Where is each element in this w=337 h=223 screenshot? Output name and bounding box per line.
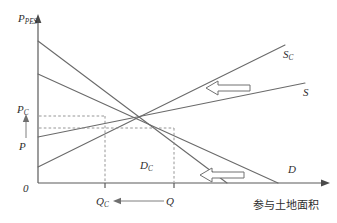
supply-shifted-curve	[38, 45, 285, 167]
demand-shifted-label-main: D	[140, 159, 148, 171]
price-label-pc-main: P	[17, 103, 24, 115]
quantity-movement-arrow	[113, 198, 164, 204]
demand-shifted-label-subscript: C	[148, 165, 153, 173]
quantity-label-qc: QC	[96, 196, 109, 209]
supply-curve-label: S	[303, 87, 309, 98]
price-label-pc: PC	[17, 104, 29, 117]
quantity-label-q: Q	[166, 196, 174, 207]
quantity-label-qc-subscript: C	[104, 201, 109, 209]
demand-shifted-curve-label: DC	[140, 160, 153, 173]
supply-shifted-curve-label: SC	[283, 49, 293, 62]
quantity-arrow-head-left-icon	[113, 198, 121, 204]
y-axis-label: PPES	[18, 13, 37, 26]
chart-canvas	[0, 0, 337, 223]
quantity-label-qc-main: Q	[96, 195, 104, 207]
y-axis-label-main: P	[18, 12, 25, 24]
x-axis-label: 参与土地面积	[253, 200, 319, 211]
left-block-arrow-icon	[206, 81, 250, 95]
demand-shifted-curve	[38, 41, 227, 183]
price-movement-arrow	[23, 114, 29, 138]
origin-label: 0	[23, 183, 29, 194]
price-label-p: P	[19, 141, 26, 152]
price-label-pc-subscript: C	[24, 109, 29, 117]
supply-curve	[38, 83, 305, 137]
supply-shifted-label-subscript: C	[289, 54, 294, 62]
guide-lines-group	[39, 116, 174, 182]
x-axis-arrowhead	[321, 180, 330, 187]
y-axis-label-subscript: PES	[25, 18, 37, 26]
x-axis-ticks	[105, 183, 174, 188]
curves-group	[38, 41, 305, 183]
supply-shift-arrow	[206, 81, 250, 95]
demand-curve-label: D	[288, 164, 296, 175]
economics-supply-demand-figure: PPES PC P 0 SC S D DC QC Q 参与土地面积	[0, 0, 337, 223]
axes-group	[35, 14, 330, 186]
